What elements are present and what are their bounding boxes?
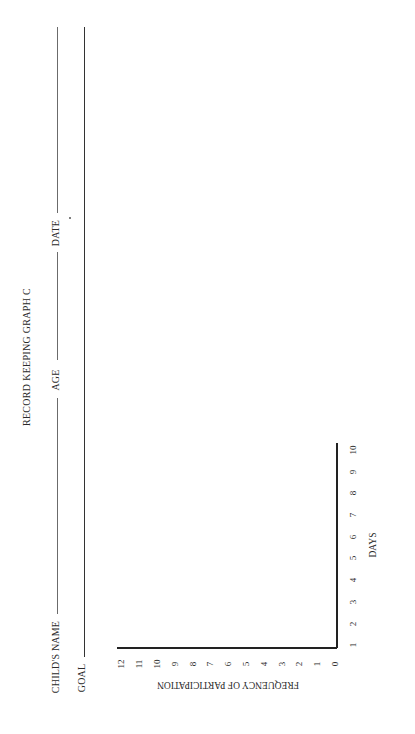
y-axis-title: FREQUENCY OF PARTICIPATION — [157, 680, 299, 690]
y-tick-11: 11 — [134, 660, 144, 669]
x-tick-1: 1 — [348, 643, 358, 648]
age-label: AGE — [50, 369, 61, 390]
page-title: RECORD KEEPING GRAPH C — [21, 288, 32, 426]
date-field[interactable] — [57, 27, 58, 213]
y-tick-1: 1 — [312, 662, 322, 667]
x-tick-2: 2 — [348, 622, 358, 627]
x-tick-6: 6 — [348, 535, 358, 540]
goal-field[interactable] — [84, 27, 85, 657]
x-axis-title: DAYS — [368, 533, 378, 558]
x-tick-10: 10 — [348, 446, 358, 455]
y-tick-7: 7 — [205, 662, 215, 667]
stray-mark — [69, 217, 71, 219]
x-axis-line — [336, 443, 338, 648]
date-label: DATE — [50, 220, 61, 246]
y-tick-8: 8 — [188, 662, 198, 667]
y-tick-0: 0 — [330, 662, 340, 667]
childs-name-field[interactable] — [57, 398, 58, 614]
x-tick-8: 8 — [348, 491, 358, 496]
y-tick-9: 9 — [170, 662, 180, 667]
y-tick-10: 10 — [152, 660, 162, 669]
y-tick-6: 6 — [223, 662, 233, 667]
x-tick-9: 9 — [348, 470, 358, 475]
y-tick-4: 4 — [259, 662, 269, 667]
x-tick-5: 5 — [348, 556, 358, 561]
y-tick-3: 3 — [277, 662, 287, 667]
y-axis-line — [117, 647, 337, 649]
y-tick-5: 5 — [241, 662, 251, 667]
x-tick-4: 4 — [348, 578, 358, 583]
x-tick-7: 7 — [348, 513, 358, 518]
age-field[interactable] — [57, 252, 58, 360]
y-tick-2: 2 — [294, 662, 304, 667]
childs-name-label: CHILD'S NAME — [50, 621, 61, 693]
x-tick-3: 3 — [348, 600, 358, 605]
y-tick-12: 12 — [116, 660, 126, 669]
goal-label: GOAL — [76, 664, 87, 693]
